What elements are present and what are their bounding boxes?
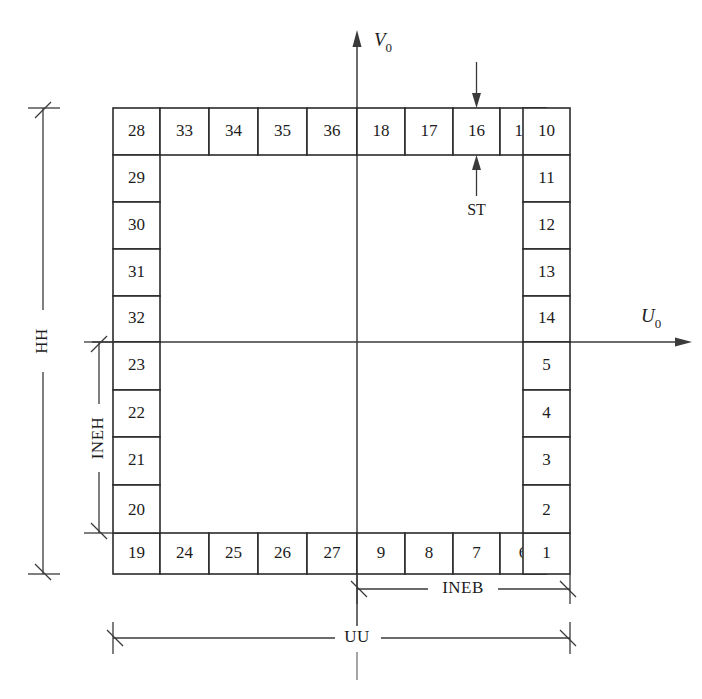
cell-label: 34 bbox=[225, 121, 243, 140]
cell-label: 2 bbox=[542, 500, 551, 519]
st-dimension-label: ST bbox=[467, 201, 486, 218]
top-row-cells: 28 33 34 35 36 18 bbox=[113, 108, 570, 155]
cell-label: 14 bbox=[538, 308, 556, 327]
figure-canvas: V0 U0 28 33 34 35 bbox=[0, 0, 702, 699]
cell-right-upper-3[interactable]: 14 bbox=[523, 296, 570, 342]
cell-bottom-1[interactable]: 24 bbox=[160, 533, 209, 574]
cell-label: 24 bbox=[176, 543, 194, 562]
cell-label: 8 bbox=[425, 543, 434, 562]
cell-label: 27 bbox=[324, 543, 342, 562]
cell-bottom-7[interactable]: 7 bbox=[453, 533, 500, 574]
ineh-dimension-label: INEH bbox=[88, 417, 107, 460]
cell-right-lower-0[interactable]: 5 bbox=[523, 342, 570, 390]
cell-left-upper-1[interactable]: 30 bbox=[113, 202, 160, 249]
vertical-axis-arrowhead bbox=[353, 30, 362, 47]
cell-bottom-9[interactable]: 1 bbox=[523, 533, 570, 574]
cell-label: 13 bbox=[538, 262, 555, 281]
cell-label: 10 bbox=[538, 121, 555, 140]
cell-top-4[interactable]: 36 bbox=[307, 108, 357, 155]
cell-left-lower-0[interactable]: 23 bbox=[113, 342, 160, 390]
cell-label: 32 bbox=[128, 308, 145, 327]
cell-label: 35 bbox=[274, 121, 291, 140]
left-column-upper-cells: 29 30 31 32 bbox=[113, 155, 160, 342]
cell-right-upper-2[interactable]: 13 bbox=[523, 249, 570, 296]
cell-right-lower-1[interactable]: 4 bbox=[523, 390, 570, 437]
cell-top-5[interactable]: 18 bbox=[357, 108, 405, 155]
cell-label: 7 bbox=[472, 543, 481, 562]
cell-bottom-0[interactable]: 19 bbox=[113, 533, 160, 574]
cell-label: 29 bbox=[128, 168, 145, 187]
cell-label: 30 bbox=[128, 215, 145, 234]
cell-label: 18 bbox=[373, 121, 390, 140]
cell-right-lower-3[interactable]: 2 bbox=[523, 485, 570, 533]
cell-label: 33 bbox=[176, 121, 193, 140]
cell-label: 26 bbox=[274, 543, 291, 562]
cell-top-7[interactable]: 16 bbox=[453, 108, 500, 155]
cell-label: 5 bbox=[542, 355, 551, 374]
cell-left-lower-2[interactable]: 21 bbox=[113, 437, 160, 485]
ineh-dimension: INEH bbox=[84, 336, 114, 539]
cell-top-6[interactable]: 17 bbox=[405, 108, 453, 155]
vertical-axis-label: V0 bbox=[374, 29, 392, 55]
uu-dimension-label: UU bbox=[344, 627, 370, 646]
cell-label: 36 bbox=[324, 121, 341, 140]
hh-dimension-label: HH bbox=[32, 328, 51, 354]
cell-label: 21 bbox=[128, 450, 145, 469]
cell-label: 22 bbox=[128, 403, 145, 422]
cell-top-0[interactable]: 28 bbox=[113, 108, 160, 155]
cell-bottom-4[interactable]: 27 bbox=[307, 533, 357, 574]
cell-label: 3 bbox=[542, 450, 551, 469]
cell-bottom-6[interactable]: 8 bbox=[405, 533, 453, 574]
cell-left-upper-3[interactable]: 32 bbox=[113, 296, 160, 342]
cell-label: 16 bbox=[468, 121, 485, 140]
cell-left-upper-2[interactable]: 31 bbox=[113, 249, 160, 296]
cell-label: 19 bbox=[128, 543, 145, 562]
cell-right-upper-1[interactable]: 12 bbox=[523, 202, 570, 249]
cell-label: 9 bbox=[377, 543, 386, 562]
horizontal-axis-label-sub: 0 bbox=[655, 316, 662, 331]
left-column-lower-cells: 23 22 21 20 bbox=[113, 342, 160, 533]
horizontal-axis-label: U0 bbox=[641, 305, 661, 331]
cell-label: 25 bbox=[225, 543, 242, 562]
cell-top-9[interactable]: 10 bbox=[523, 108, 570, 155]
cell-label: 31 bbox=[128, 262, 145, 281]
cell-label: 4 bbox=[542, 403, 551, 422]
right-column-lower-cells: 5 4 3 2 bbox=[523, 342, 570, 533]
cell-top-1[interactable]: 33 bbox=[160, 108, 209, 155]
cell-label: 1 bbox=[542, 543, 551, 562]
cell-top-3[interactable]: 35 bbox=[258, 108, 307, 155]
cell-right-lower-2[interactable]: 3 bbox=[523, 437, 570, 485]
bottom-row-cells: 19 24 25 26 27 9 bbox=[113, 533, 570, 574]
cell-left-lower-3[interactable]: 20 bbox=[113, 485, 160, 533]
cell-right-upper-0[interactable]: 11 bbox=[523, 155, 570, 202]
cell-top-2[interactable]: 34 bbox=[209, 108, 258, 155]
st-upper-arrowhead bbox=[472, 93, 481, 108]
cell-left-lower-1[interactable]: 22 bbox=[113, 390, 160, 437]
hh-dimension: HH bbox=[28, 102, 60, 580]
cell-left-upper-0[interactable]: 29 bbox=[113, 155, 160, 202]
right-column-upper-cells: 11 12 13 14 bbox=[523, 155, 570, 342]
horizontal-axis-arrowhead bbox=[675, 338, 692, 347]
st-lower-arrowhead bbox=[472, 155, 481, 170]
cell-bottom-2[interactable]: 25 bbox=[209, 533, 258, 574]
cell-bottom-3[interactable]: 26 bbox=[258, 533, 307, 574]
cell-label: 17 bbox=[421, 121, 439, 140]
cell-label: 11 bbox=[538, 168, 554, 187]
ineb-dimension: INEB bbox=[351, 574, 576, 604]
cell-label: 20 bbox=[128, 500, 145, 519]
cross-section-diagram: V0 U0 28 33 34 35 bbox=[0, 0, 702, 699]
uu-dimension: UU bbox=[107, 622, 576, 654]
cell-bottom-5[interactable]: 9 bbox=[357, 533, 405, 574]
ineb-dimension-label: INEB bbox=[442, 578, 484, 597]
cell-label: 28 bbox=[128, 121, 145, 140]
cell-label: 12 bbox=[538, 215, 555, 234]
cell-label: 23 bbox=[128, 355, 145, 374]
vertical-axis-label-sub: 0 bbox=[386, 40, 393, 55]
